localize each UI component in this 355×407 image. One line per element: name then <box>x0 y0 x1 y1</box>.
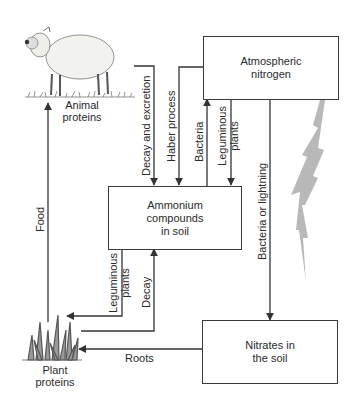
node-animal-proteins: Animal proteins <box>52 99 112 123</box>
node-plant-proteins: Plant proteins <box>25 364 85 388</box>
edge-label-leguminous-left-line1: Leguminous <box>107 252 119 314</box>
node-atmospheric-line2: nitrogen <box>240 68 301 81</box>
node-atmospheric-line1: Atmospheric <box>240 55 301 68</box>
edge-label-bacteria-lightning: Bacteria or lightning <box>256 163 268 260</box>
node-ammonium-line1: Ammonium <box>147 199 204 212</box>
edge-label-leguminous-left-line2: plants <box>119 252 131 314</box>
nitrogen-cycle-diagram: Atmospheric nitrogen Ammonium compounds … <box>0 0 355 407</box>
node-nitrates-line2: the soil <box>245 352 295 365</box>
edge-label-leguminous-down: Leguminous plants <box>216 100 240 172</box>
edge-label-food: Food <box>34 207 46 232</box>
node-animal-line2: proteins <box>52 111 112 123</box>
edge-label-bacteria-up: Bacteria <box>193 122 205 162</box>
node-plant-line1: Plant <box>25 364 85 376</box>
edge-label-decay-excretion: Decay and excretion <box>140 76 152 176</box>
edge-label-leguminous-down-line2: plants <box>228 100 240 172</box>
node-animal-line1: Animal <box>52 99 112 111</box>
node-ammonium-line3: in soil <box>147 225 204 238</box>
sheep-icon <box>25 27 135 97</box>
node-nitrates-soil: Nitrates in the soil <box>202 320 338 384</box>
node-nitrates-line1: Nitrates in <box>245 339 295 352</box>
edge-label-leguminous-down-line1: Leguminous <box>216 100 228 172</box>
node-atmospheric-nitrogen: Atmospheric nitrogen <box>203 36 339 100</box>
edge-label-haber: Haber process <box>165 90 177 162</box>
node-ammonium-line2: compounds <box>147 212 204 225</box>
lightning-icon <box>291 100 325 282</box>
edge-label-roots: Roots <box>125 352 154 364</box>
grass-icon <box>22 315 82 360</box>
node-ammonium-compounds: Ammonium compounds in soil <box>108 186 242 250</box>
edge-label-decay: Decay <box>140 277 152 308</box>
edge-label-leguminous-left: Leguminous plants <box>107 252 131 314</box>
node-plant-line2: proteins <box>25 376 85 388</box>
